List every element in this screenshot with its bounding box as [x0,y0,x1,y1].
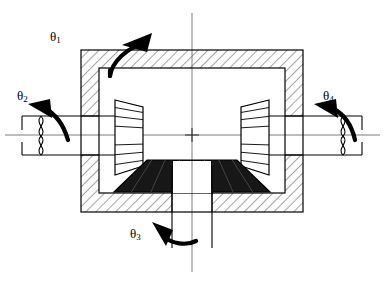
theta3-label: θ3 [130,227,141,242]
theta4-subscript: 4 [329,94,334,104]
theta3-rotation-arrow [152,222,196,246]
theta4-rotation-arrow [314,99,355,140]
theta2-label: θ2 [17,89,28,104]
right-bevel-gear [238,100,272,175]
left-bevel-gear [112,100,146,175]
theta4-label: θ4 [323,89,334,104]
theta2-rotation-arrow [28,99,68,140]
theta2-subscript: 2 [23,94,28,104]
figure-root: θ1 θ2 θ3 θ4 [0,0,385,284]
theta1-label: θ1 [50,30,61,45]
theta1-subscript: 1 [56,35,61,45]
theta3-subscript: 3 [136,232,141,242]
